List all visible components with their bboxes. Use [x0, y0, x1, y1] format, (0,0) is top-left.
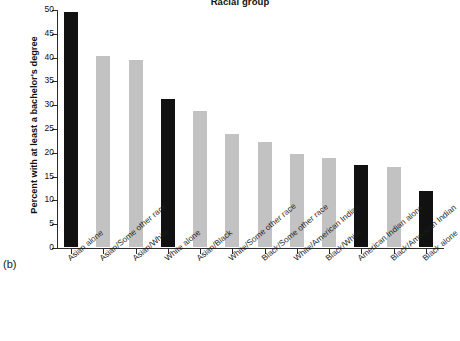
y-tick-label: 35 — [45, 75, 54, 85]
bar — [322, 158, 336, 247]
bar — [225, 134, 239, 247]
y-tick-label: 50 — [45, 4, 54, 14]
plot-area: 05101520253035404550 — [57, 10, 444, 248]
y-axis-title: Percent with at least a bachelor's degre… — [29, 5, 39, 245]
panel-label: (b) — [3, 258, 16, 270]
x-tick-mark — [103, 249, 104, 254]
bar — [161, 99, 175, 247]
x-tick-mark — [200, 249, 201, 254]
bar — [290, 154, 304, 247]
x-tick-mark — [232, 249, 233, 254]
y-tick-label: 5 — [49, 218, 54, 228]
x-tick-mark — [329, 249, 330, 254]
bar — [64, 12, 78, 247]
y-tick-label: 0 — [49, 242, 54, 252]
chart-title: Racial group — [120, 0, 360, 7]
y-tick-label: 30 — [45, 99, 54, 109]
bar — [258, 142, 272, 247]
bar — [193, 111, 207, 247]
y-axis-line — [57, 10, 58, 249]
x-tick-mark — [361, 249, 362, 254]
y-tick-label: 20 — [45, 147, 54, 157]
y-tick-label: 10 — [45, 194, 54, 204]
x-tick-mark — [71, 249, 72, 254]
y-tick-label: 40 — [45, 52, 54, 62]
x-tick-mark — [426, 249, 427, 254]
bar — [96, 56, 110, 247]
x-tick-mark — [394, 249, 395, 254]
x-axis-line — [57, 248, 444, 249]
y-tick-label: 45 — [45, 28, 54, 38]
x-tick-mark — [297, 249, 298, 254]
bar — [354, 165, 368, 247]
bar — [387, 167, 401, 247]
x-tick-mark — [265, 249, 266, 254]
y-tick-label: 15 — [45, 171, 54, 181]
x-tick-mark — [168, 249, 169, 254]
y-tick-label: 25 — [45, 123, 54, 133]
bar — [419, 191, 433, 247]
x-tick-mark — [136, 249, 137, 254]
bar — [129, 60, 143, 247]
